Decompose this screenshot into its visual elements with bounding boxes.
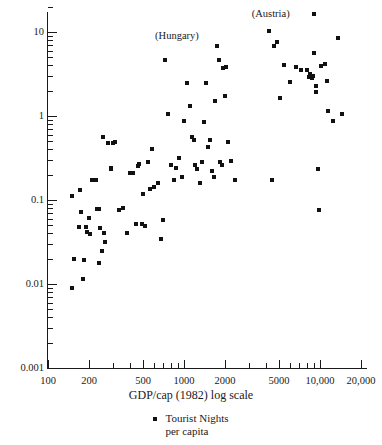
y-tick-minor — [48, 76, 53, 77]
data-point — [159, 237, 163, 241]
data-point — [210, 169, 214, 173]
data-point — [282, 63, 286, 67]
data-point — [94, 178, 98, 182]
x-tick-major — [320, 360, 321, 368]
y-tick-minor — [48, 40, 53, 41]
y-tick-label-text: 10 — [2, 27, 44, 37]
data-point — [102, 231, 106, 235]
y-tick-major — [48, 368, 57, 369]
data-point — [137, 162, 141, 166]
data-point — [312, 51, 316, 55]
y-tick-minor — [48, 124, 53, 125]
data-point — [270, 178, 274, 182]
y-tick-minor — [48, 328, 53, 329]
data-point — [223, 94, 227, 98]
data-point — [323, 62, 327, 66]
data-point — [81, 277, 85, 281]
y-tick-minor — [48, 317, 53, 318]
data-point — [121, 206, 125, 210]
data-point — [317, 208, 321, 212]
data-point — [143, 224, 147, 228]
x-tick-minor — [307, 363, 308, 368]
data-point — [278, 96, 282, 100]
y-tick-minor — [48, 204, 53, 205]
data-point — [70, 194, 74, 198]
x-tick-label-text: 20,000 — [347, 375, 376, 386]
y-tick-minor — [48, 135, 53, 136]
x-tick-minor — [299, 363, 300, 368]
point-annotation: (Hungary) — [155, 30, 199, 41]
data-point — [272, 44, 276, 48]
data-point — [82, 258, 86, 262]
data-point — [87, 216, 91, 220]
y-tick-minor — [48, 208, 53, 209]
x-tick-label-text: 200 — [81, 375, 97, 386]
data-point — [101, 135, 105, 139]
data-point — [78, 188, 82, 192]
data-point — [177, 156, 181, 160]
x-tick-major — [184, 360, 185, 368]
x-tick-minor — [163, 363, 164, 368]
x-tick-major — [361, 360, 362, 368]
legend-label-line2: per capita — [165, 425, 208, 437]
y-tick-minor — [48, 57, 53, 58]
y-tick-minor — [48, 65, 53, 66]
data-point — [98, 226, 102, 230]
x-tick-label: 200 — [59, 370, 119, 388]
data-point — [113, 140, 117, 144]
y-tick-minor — [48, 244, 53, 245]
data-point — [97, 207, 101, 211]
data-point — [229, 159, 233, 163]
data-point — [79, 210, 83, 214]
data-point — [206, 145, 210, 149]
y-tick-minor — [48, 149, 53, 150]
x-tick-major — [48, 360, 49, 368]
x-tick-minor — [171, 363, 172, 368]
y-tick-label-text: 1 — [2, 111, 44, 121]
data-point — [180, 175, 184, 179]
y-tick-minor — [48, 213, 53, 214]
data-point — [200, 160, 204, 164]
data-point — [331, 119, 335, 123]
y-tick-minor — [48, 51, 53, 52]
data-point — [188, 104, 192, 108]
legend-marker-square — [153, 417, 157, 421]
y-tick-minor — [48, 175, 53, 176]
data-point — [294, 65, 298, 69]
data-point — [166, 112, 170, 116]
x-tick-label-text: 1000 — [174, 375, 195, 386]
x-tick-minor — [290, 363, 291, 368]
data-point — [312, 12, 316, 16]
y-tick-minor — [48, 129, 53, 130]
data-point — [77, 225, 81, 229]
data-point — [275, 40, 279, 44]
data-point — [169, 163, 173, 167]
y-tick-minor — [48, 233, 53, 234]
data-point — [84, 225, 88, 229]
data-point — [150, 147, 154, 151]
data-point — [314, 84, 318, 88]
data-point — [336, 36, 340, 40]
y-tick-minor — [48, 7, 53, 8]
y-tick-minor — [48, 288, 53, 289]
y-tick-minor — [48, 225, 53, 226]
legend-entry: Tourist Nights per capita — [153, 412, 228, 438]
y-tick-minor — [48, 45, 53, 46]
data-point — [97, 261, 101, 265]
y-tick-minor — [48, 219, 53, 220]
x-tick-label: 2000 — [195, 370, 255, 388]
y-tick-minor — [48, 160, 53, 161]
data-point — [340, 112, 344, 116]
data-point — [134, 222, 138, 226]
plot-area: 1010.10.010.001 10020050010002000500010,… — [0, 0, 382, 382]
data-point — [193, 163, 197, 167]
data-point — [152, 185, 156, 189]
y-tick-major — [48, 284, 57, 285]
data-point — [226, 140, 230, 144]
scatter-chart: 1010.10.010.001 10020050010002000500010,… — [0, 0, 382, 445]
data-point — [224, 65, 228, 69]
data-point — [185, 81, 189, 85]
data-point — [100, 249, 104, 253]
y-tick-label-text: 0.01 — [2, 279, 44, 289]
data-point — [141, 192, 145, 196]
